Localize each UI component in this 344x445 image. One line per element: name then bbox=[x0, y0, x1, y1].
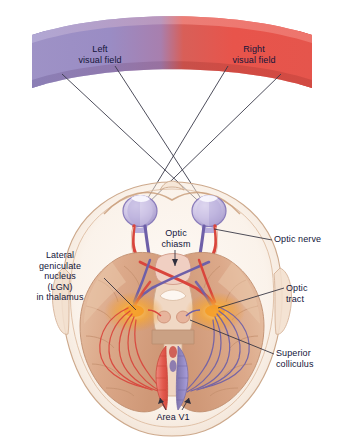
label-optic-nerve: Optic nerve bbox=[274, 234, 342, 245]
basilar-artery bbox=[169, 346, 177, 358]
label-lateral-geniculate-nucleus: Lateral geniculate nucleus (LGN) in thal… bbox=[18, 250, 102, 303]
pons-band bbox=[152, 330, 194, 344]
label-right-visual-field: Right visual field bbox=[216, 44, 292, 65]
visual-pathway-diagram bbox=[0, 0, 344, 445]
label-optic-tract: Optic tract bbox=[286, 283, 338, 304]
left-lgn-core bbox=[124, 305, 144, 317]
label-left-visual-field: Left visual field bbox=[62, 44, 138, 65]
label-superior-colliculus: Superior colliculus bbox=[276, 348, 342, 369]
label-optic-chiasm: Optic chiasm bbox=[148, 228, 204, 249]
midline-vein bbox=[170, 360, 177, 372]
right-superior-colliculus bbox=[177, 311, 190, 323]
chiasm-body bbox=[155, 254, 191, 285]
label-area-v1: Area V1 bbox=[144, 412, 202, 423]
left-superior-colliculus bbox=[158, 311, 171, 323]
